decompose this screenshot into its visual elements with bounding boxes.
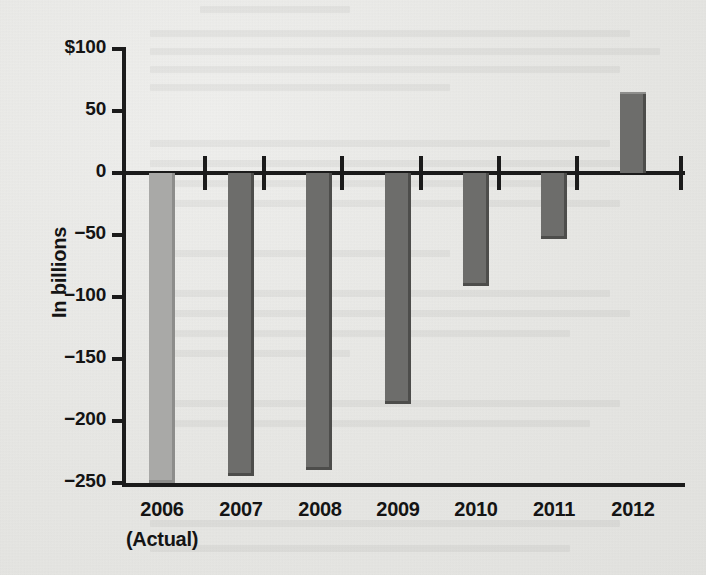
bar-2010[interactable] [463,173,489,286]
bar-2012-edge-top [620,92,646,94]
bar-2006[interactable] [149,173,175,483]
bar-2007[interactable] [228,173,254,476]
x-label-2006: 2006 [122,498,202,521]
y-tick-neg150 [112,357,126,361]
y-tick-label-neg150: −150 [22,346,106,368]
x-label-2010: 2010 [436,498,516,521]
x-tick-boundary-5 [497,156,501,190]
x-label-2009: 2009 [358,498,438,521]
bar-2009-edge-right [408,173,411,404]
bar-2010-edge-bottom [463,283,489,286]
y-tick-100 [112,47,126,51]
y-tick-label-0: 0 [22,160,106,182]
y-axis-title: In billions [48,227,71,318]
bar-2009[interactable] [385,173,411,404]
deficit-bar-chart: $100 50 0 −50 −100 −150 −200 −250 In bil… [0,0,706,575]
bar-2011-edge-bottom [541,236,567,239]
bar-2006-edge-bottom [149,480,175,483]
bar-2012[interactable] [620,92,646,173]
bar-2007-edge-bottom [228,473,254,476]
y-tick-label-100: $100 [22,36,106,58]
bar-2010-edge-right [486,173,489,286]
bar-2007-edge-right [251,173,254,476]
y-tick-label-neg200: −200 [22,408,106,430]
bar-2011[interactable] [541,173,567,239]
y-tick-0 [112,171,126,175]
y-tick-50 [112,109,126,113]
y-tick-label-neg250: −250 [22,470,106,492]
x-sublabel-2006-actual: (Actual) [122,528,202,551]
x-label-2007: 2007 [201,498,281,521]
y-tick-neg250 [112,481,126,485]
y-tick-neg200 [112,419,126,423]
bar-2008-edge-bottom [306,467,332,470]
x-label-2012: 2012 [593,498,673,521]
x-label-2008: 2008 [280,498,360,521]
chart-bottom-line [122,483,685,487]
bar-2009-edge-bottom [385,401,411,404]
x-label-2011: 2011 [514,498,594,521]
bar-2008-edge-right [329,173,332,470]
x-tick-boundary-7 [679,156,683,190]
bar-2011-edge-right [564,173,567,239]
x-tick-boundary-4 [419,156,423,190]
x-tick-boundary-6 [575,156,579,190]
bar-2006-edge-right [172,173,175,483]
x-tick-boundary-2 [262,156,266,190]
x-tick-boundary-3 [340,156,344,190]
bar-2008[interactable] [306,173,332,470]
x-tick-boundary-1 [203,156,207,190]
bar-2012-edge-right [643,92,646,173]
y-tick-neg50 [112,233,126,237]
y-tick-label-50: 50 [22,98,106,120]
y-tick-neg100 [112,295,126,299]
